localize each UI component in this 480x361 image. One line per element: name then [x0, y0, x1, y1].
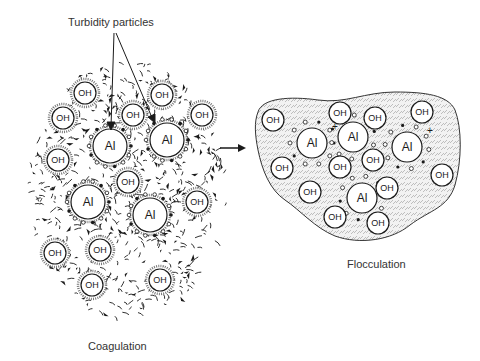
svg-text:OH: OH	[48, 248, 62, 258]
fleck	[72, 101, 74, 105]
fleck	[150, 295, 154, 296]
fleck	[110, 85, 111, 89]
hydroxide-particle: OH	[411, 101, 433, 123]
fleck	[108, 232, 113, 234]
fleck	[160, 250, 162, 253]
fleck	[129, 250, 130, 254]
fleck	[205, 176, 206, 180]
fleck	[201, 217, 202, 221]
fleck	[117, 261, 118, 265]
fleck	[144, 64, 145, 67]
fleck	[55, 217, 60, 222]
fleck	[136, 90, 137, 94]
fleck	[166, 183, 169, 190]
fleck	[201, 230, 206, 232]
svg-text:Al: Al	[402, 140, 413, 154]
fleck	[122, 312, 129, 314]
fleck	[169, 263, 171, 267]
fleck	[192, 282, 195, 284]
fleck	[118, 213, 121, 214]
fleck	[57, 179, 65, 180]
fleck	[47, 236, 52, 238]
fleck	[99, 311, 103, 316]
fleck	[151, 239, 156, 241]
hydroxide-particle: OH	[324, 206, 346, 228]
fleck	[74, 228, 81, 230]
hydroxide-particle: OH	[146, 266, 174, 294]
fleck	[89, 166, 91, 169]
hydroxide-particle: OH	[271, 157, 293, 179]
fleck	[144, 179, 151, 182]
fleck	[114, 197, 116, 204]
svg-text:Al: Al	[145, 208, 156, 222]
aluminum-particle: Al	[338, 122, 368, 152]
fleck	[74, 225, 80, 226]
fleck	[215, 198, 218, 200]
fleck	[191, 173, 198, 176]
fleck	[103, 83, 107, 85]
fleck	[52, 176, 55, 179]
fleck	[182, 277, 187, 279]
fleck	[206, 152, 211, 155]
aluminum-particle: Al	[65, 180, 111, 225]
fleck	[70, 263, 77, 265]
fleck	[117, 221, 119, 223]
hydroxide-particle: OH	[114, 168, 142, 196]
fleck	[155, 176, 159, 179]
fleck	[117, 306, 121, 309]
hydroxide-particle: OH	[367, 212, 389, 234]
fleck	[139, 308, 143, 310]
fleck	[109, 302, 115, 305]
fleck	[191, 244, 194, 248]
fleck	[109, 212, 111, 215]
fleck	[145, 299, 151, 300]
fleck	[98, 99, 105, 102]
fleck	[46, 142, 47, 147]
fleck	[59, 226, 60, 229]
fleck	[174, 241, 177, 244]
fleck	[75, 293, 78, 294]
fleck	[176, 236, 181, 238]
fleck	[32, 171, 35, 174]
hydroxide-particle: OH	[49, 104, 77, 132]
flocculation-label: Flocculation	[347, 258, 406, 270]
fleck	[181, 179, 182, 184]
fleck	[71, 170, 77, 173]
charge-plus-icon: +	[427, 125, 433, 136]
fleck	[212, 192, 216, 198]
fleck	[125, 129, 127, 131]
fleck	[178, 180, 179, 183]
fleck	[211, 132, 214, 136]
fleck	[100, 67, 103, 72]
fleck	[134, 248, 138, 251]
hydroxide-particle: OH	[329, 102, 351, 124]
fleck	[138, 290, 145, 292]
fleck	[30, 163, 31, 168]
fleck	[130, 281, 137, 282]
fleck	[79, 149, 84, 152]
fleck	[188, 285, 193, 288]
fleck	[104, 77, 111, 78]
fleck	[215, 241, 220, 246]
fleck	[117, 240, 118, 244]
fleck	[87, 303, 89, 307]
fleck	[212, 149, 216, 151]
fleck	[201, 143, 206, 144]
fleck	[132, 85, 133, 89]
fleck	[105, 69, 109, 72]
fleck	[176, 169, 181, 170]
fleck	[173, 250, 179, 251]
fleck	[96, 104, 97, 108]
hydroxide-particle: OH	[329, 156, 351, 178]
fleck	[203, 233, 206, 235]
hydroxide-particle: OH	[148, 81, 176, 109]
fleck	[137, 63, 143, 64]
fleck	[129, 307, 131, 310]
fleck	[166, 230, 172, 233]
fleck	[180, 290, 182, 294]
fleck	[103, 312, 109, 316]
svg-text:Al: Al	[348, 130, 359, 144]
coagulation-label: Coagulation	[88, 340, 147, 352]
fleck	[159, 177, 163, 180]
fleck	[168, 252, 171, 255]
